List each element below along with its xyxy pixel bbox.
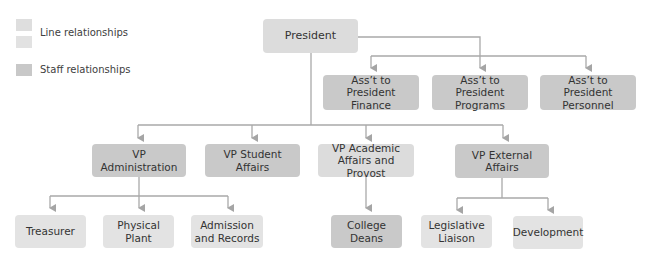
connector-president-staff [358, 37, 480, 68]
node-president: President [263, 19, 358, 53]
node-asst-personnel: Ass’t to President Personnel [540, 75, 636, 110]
node-college-deans: College Deans [331, 215, 402, 248]
node-development: Development [513, 216, 583, 249]
node-vp-external-affairs: VP External Affairs [455, 144, 549, 178]
node-vp-administration: VP Administration [92, 144, 186, 177]
node-physical-plant: Physical Plant [103, 215, 174, 248]
node-treasurer: Treasurer [15, 215, 86, 248]
node-legislative-liaison: Legislative Liaison [421, 215, 492, 248]
node-admission-records: Admission and Records [191, 215, 263, 248]
node-asst-finance: Ass’t to President Finance [323, 75, 419, 110]
node-vp-student-affairs: VP Student Affairs [205, 144, 300, 177]
node-asst-programs: Ass’t to President Programs [432, 75, 528, 110]
node-vp-academic-affairs: VP Academic Affairs and Provost [318, 144, 414, 177]
